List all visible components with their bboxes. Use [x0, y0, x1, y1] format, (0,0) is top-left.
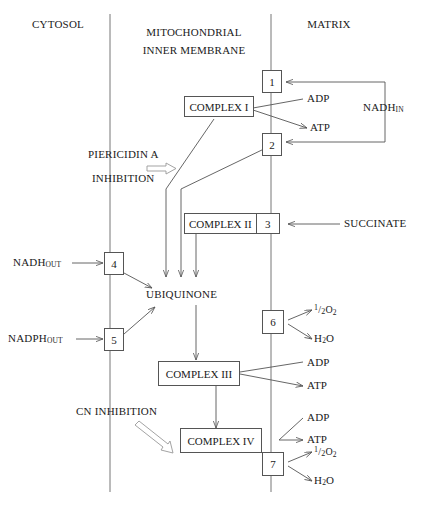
cyanide-inhibitor-label: CN INHIBITION [76, 405, 157, 418]
half-o2-element-subscript-site6: 2 [333, 308, 337, 317]
nadh-out-label: NADHOUT [13, 256, 61, 270]
site5-to-ubiquinone-line [124, 307, 155, 334]
nadh-in-label: NADHIN [363, 101, 404, 115]
atp-label-complex4: ATP [307, 433, 327, 446]
region-label-matrix: MATRIX [284, 18, 374, 31]
half-o2-element-site7: O [325, 446, 332, 457]
complex1-adp-line [253, 99, 303, 108]
water-h-site7: H [314, 474, 322, 486]
complex-3-box: COMPLEX III [158, 361, 240, 386]
half-o2-label-site6: 1/2O2 [314, 303, 337, 317]
water-o-site7: O [326, 474, 334, 486]
region-label-cytosol: CYTOSOL [14, 18, 102, 31]
site-box-5: 5 [104, 328, 124, 351]
nadph-out-subscript: OUT [47, 336, 63, 345]
ubiquinone-label: UBIQUINONE [146, 288, 217, 301]
piericidin-inhibitor-line2: INHIBITION [92, 172, 154, 185]
complex-4-box: COMPLEX IV [180, 428, 262, 453]
site-box-7: 7 [262, 452, 284, 476]
site7-h2o-line [288, 466, 312, 481]
complex1-atp-line [253, 110, 307, 128]
half-o2-element-site6: O [325, 304, 332, 315]
site4-to-ubiquinone-line [124, 273, 152, 288]
adp-label-complex4: ADP [307, 411, 330, 424]
succinate-label: SUCCINATE [344, 217, 406, 230]
complex-2-label: COMPLEX II [185, 214, 256, 233]
water-o-site6: O [326, 332, 334, 344]
nadh-in-subscript: IN [396, 105, 404, 114]
site-box-2: 2 [262, 133, 282, 156]
water-h-site6: H [314, 332, 322, 344]
complex-2-group: COMPLEX II 3 [184, 213, 280, 234]
atp-label-complex1: ATP [310, 121, 330, 134]
site-box-3: 3 [256, 214, 279, 233]
region-label-membrane-line1: MITOCHONDRIAL [124, 26, 264, 39]
cyanide-inhibition-arrow [135, 421, 173, 453]
piericidin-inhibitor-line1: PIERICIDIN A [88, 148, 159, 161]
site6-o2-line [288, 310, 312, 320]
site-box-1: 1 [262, 70, 282, 93]
site-box-4: 4 [104, 252, 124, 275]
nadh-out-subscript: OUT [46, 260, 62, 269]
water-label-site7: H2O [314, 474, 334, 488]
nadh-in-base: NADH [363, 101, 396, 113]
adp-label-complex1: ADP [307, 92, 330, 105]
nadh-out-base: NADH [13, 256, 46, 268]
water-label-site6: H2O [314, 332, 334, 346]
electron-transport-chain-diagram: CYTOSOL MITOCHONDRIAL INNER MEMBRANE MAT… [0, 0, 425, 505]
site6-h2o-line [288, 324, 312, 339]
region-label-membrane-line2: INNER MEMBRANE [124, 44, 264, 57]
half-o2-label-site7: 1/2O2 [314, 445, 337, 459]
complex4-adp-line [279, 418, 303, 440]
half-o2-element-subscript-site7: 2 [333, 450, 337, 459]
complex-1-box: COMPLEX I [184, 96, 254, 117]
nadph-out-label: NADPHOUT [8, 332, 63, 346]
site7-o2-line [288, 452, 312, 462]
adp-label-complex3: ADP [307, 356, 330, 369]
nadph-out-base: NADPH [8, 332, 47, 344]
complex1-to-ubiquinone-path [166, 119, 214, 277]
atp-label-complex3: ATP [307, 379, 327, 392]
site-box-6: 6 [262, 310, 284, 334]
